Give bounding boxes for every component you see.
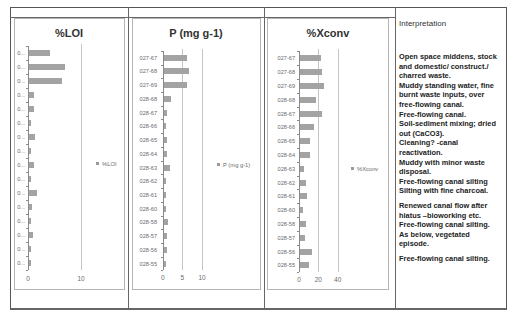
bar (164, 110, 167, 116)
bar (300, 249, 312, 255)
bar (300, 207, 303, 213)
x-tick-label: 5 (181, 274, 185, 282)
bar (164, 123, 166, 129)
y-tick (26, 144, 28, 145)
bar (164, 151, 167, 157)
x-tick-label: 0 (297, 276, 301, 284)
category-label: 0... (0, 161, 25, 169)
category-label: 028-58 (127, 218, 157, 226)
bar (164, 219, 168, 225)
gridline (202, 49, 203, 271)
y-tick (161, 216, 163, 217)
category-label: 028-60 (127, 205, 157, 213)
category-label: 0... (0, 259, 25, 267)
y-tick (161, 65, 163, 66)
y-tick (297, 189, 299, 190)
x-tick-label: 20 (315, 276, 322, 284)
category-label: 028-68 (265, 96, 295, 104)
y-tick (297, 93, 299, 94)
bar (29, 78, 62, 84)
bar (300, 83, 324, 89)
interpretation-list: Open space middens, stock and domestic/ … (399, 52, 507, 263)
bar (29, 50, 50, 56)
category-label: 0... (0, 91, 25, 99)
y-tick (297, 107, 299, 108)
interpretation-entry: As below, vegetated episode. (399, 230, 507, 249)
category-label: 0... (0, 175, 25, 183)
category-label: 027-67 (127, 54, 157, 62)
category-label: 0... (0, 63, 25, 71)
x-tick-label: 40 (334, 276, 341, 284)
bar (300, 55, 321, 61)
category-label: 0... (0, 77, 25, 85)
category-label: 027-68 (127, 67, 157, 75)
bar (29, 162, 34, 168)
interpretation-entry: Muddy standing water, fine burnt waste i… (399, 81, 507, 110)
legend: %LOI (96, 160, 117, 168)
y-tick (161, 147, 163, 148)
legend-swatch-icon (96, 162, 99, 165)
interpretation-entry: Free-flowing canal silting. (399, 220, 507, 230)
category-label: 0... (0, 231, 25, 239)
bar (29, 190, 37, 196)
interpretation-entry: Soil-sediment mixing; dried out (CaCO3). (399, 119, 507, 138)
bar (29, 232, 33, 238)
gridline (81, 44, 82, 270)
category-label: 0... (0, 217, 25, 225)
category-label: 028-61 (265, 192, 295, 200)
bar (164, 206, 166, 212)
bar (29, 176, 31, 182)
chart-title: %LOI (55, 27, 83, 39)
y-tick (26, 74, 28, 75)
y-tick (297, 217, 299, 218)
category-label: 027-67 (265, 54, 295, 62)
y-tick (161, 257, 163, 258)
category-label: 028-58 (265, 220, 295, 228)
bar (29, 204, 32, 210)
y-tick (161, 119, 163, 120)
bar (164, 137, 167, 143)
x-tick-label: 10 (198, 274, 205, 282)
category-label: 028-63 (265, 165, 295, 173)
y-tick (26, 116, 28, 117)
bar (29, 218, 31, 224)
y-tick (161, 106, 163, 107)
category-label: 028-66 (127, 122, 157, 130)
category-label: 0... (0, 133, 25, 141)
bar (300, 152, 310, 158)
y-tick (26, 242, 28, 243)
gridline (338, 49, 339, 272)
interpretation-entry: Free-flowing canal silting (399, 177, 507, 187)
bar (164, 165, 170, 171)
category-label: 028-56 (265, 248, 295, 256)
interpretation-entry: Muddy with minor waste disposal. (399, 158, 507, 177)
bar (29, 260, 31, 266)
interpretation-entry: Renewed canal flow after hiatus –biowork… (399, 201, 507, 220)
y-tick (26, 186, 28, 187)
bar (300, 69, 322, 75)
category-label: 028-60 (265, 206, 295, 214)
category-label: 0... (0, 119, 25, 127)
y-tick (297, 245, 299, 246)
y-tick (26, 228, 28, 229)
category-label: 027-69 (265, 82, 295, 90)
y-tick (161, 188, 163, 189)
bar (29, 246, 31, 252)
bar (300, 111, 322, 117)
y-tick (26, 130, 28, 131)
y-tick (161, 51, 163, 52)
legend-swatch-icon (351, 167, 354, 170)
y-tick (26, 270, 28, 271)
category-label: 028-62 (127, 177, 157, 185)
bar (164, 192, 166, 198)
interpretation-entry: Free-flowing canal. (399, 110, 507, 120)
bar (300, 138, 310, 144)
y-tick (297, 148, 299, 149)
bar (300, 124, 314, 130)
bar (300, 193, 307, 199)
y-tick (297, 120, 299, 121)
category-label: 028-67 (127, 109, 157, 117)
legend-label: %Xconv (357, 166, 378, 172)
bar (300, 180, 306, 186)
bar (164, 82, 187, 88)
